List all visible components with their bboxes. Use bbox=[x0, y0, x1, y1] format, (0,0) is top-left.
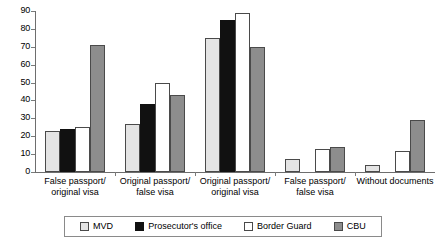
bar bbox=[205, 38, 220, 172]
bar-chart: 0102030405060708090 False passport/origi… bbox=[0, 0, 444, 250]
y-tick-10: 10 bbox=[8, 149, 30, 158]
y-tick-60: 60 bbox=[8, 60, 30, 69]
legend-label: MVD bbox=[93, 222, 113, 231]
y-tick-mark-70 bbox=[31, 47, 35, 48]
x-axis-category-labels: False passport/original visaOriginal pas… bbox=[35, 176, 435, 204]
y-tick-90: 90 bbox=[8, 6, 30, 15]
y-tick-70: 70 bbox=[8, 42, 30, 51]
legend-swatch-light-gray bbox=[80, 222, 89, 231]
y-tick-mark-0 bbox=[31, 172, 35, 173]
category-label-line: Without documents bbox=[347, 176, 443, 187]
bar bbox=[235, 13, 250, 172]
y-tick-40: 40 bbox=[8, 95, 30, 104]
bar bbox=[330, 147, 345, 172]
legend-label: Border Guard bbox=[257, 222, 312, 231]
y-tick-20: 20 bbox=[8, 131, 30, 140]
bar bbox=[220, 20, 235, 172]
bar bbox=[395, 151, 410, 172]
y-tick-mark-80 bbox=[31, 29, 35, 30]
y-tick-80: 80 bbox=[8, 24, 30, 33]
legend-swatch-black bbox=[135, 222, 144, 231]
bar bbox=[90, 45, 105, 172]
bar bbox=[45, 131, 60, 172]
bar-group bbox=[285, 11, 345, 172]
bar bbox=[250, 47, 265, 172]
plot-area: 0102030405060708090 bbox=[0, 0, 444, 186]
bar bbox=[75, 127, 90, 172]
x-axis-line bbox=[35, 172, 435, 173]
y-tick-mark-50 bbox=[31, 83, 35, 84]
legend-label: Prosecutor's office bbox=[148, 222, 222, 231]
bar bbox=[170, 95, 185, 172]
bar bbox=[315, 149, 330, 172]
bar bbox=[285, 159, 300, 172]
bar bbox=[140, 104, 155, 172]
bar-group bbox=[125, 11, 185, 172]
y-tick-0: 0 bbox=[8, 167, 30, 176]
y-tick-mark-10 bbox=[31, 154, 35, 155]
y-tick-mark-60 bbox=[31, 65, 35, 66]
legend-item[interactable]: CBU bbox=[334, 222, 366, 231]
y-tick-mark-20 bbox=[31, 136, 35, 137]
y-tick-30: 30 bbox=[8, 113, 30, 122]
y-tick-mark-40 bbox=[31, 100, 35, 101]
bar bbox=[410, 120, 425, 172]
y-tick-mark-90 bbox=[31, 11, 35, 12]
bars-container bbox=[35, 11, 435, 172]
category-label-line: false visa bbox=[267, 187, 363, 198]
y-tick-mark-30 bbox=[31, 118, 35, 119]
legend-item[interactable]: Border Guard bbox=[244, 222, 312, 231]
y-axis-tick-labels: 0102030405060708090 bbox=[8, 0, 30, 186]
bar-group bbox=[365, 11, 425, 172]
bar bbox=[125, 124, 140, 172]
category-label: Without documents bbox=[347, 176, 443, 187]
legend-label: CBU bbox=[347, 222, 366, 231]
bar-group bbox=[205, 11, 265, 172]
legend-swatch-medium-gray bbox=[334, 222, 343, 231]
bar bbox=[155, 83, 170, 172]
legend-item[interactable]: MVD bbox=[80, 222, 113, 231]
legend-swatch-white bbox=[244, 222, 253, 231]
bar-group bbox=[45, 11, 105, 172]
bar bbox=[365, 165, 380, 172]
y-tick-50: 50 bbox=[8, 78, 30, 87]
chart-legend: MVDProsecutor's officeBorder GuardCBU bbox=[64, 216, 382, 237]
bar bbox=[60, 129, 75, 172]
legend-item[interactable]: Prosecutor's office bbox=[135, 222, 222, 231]
